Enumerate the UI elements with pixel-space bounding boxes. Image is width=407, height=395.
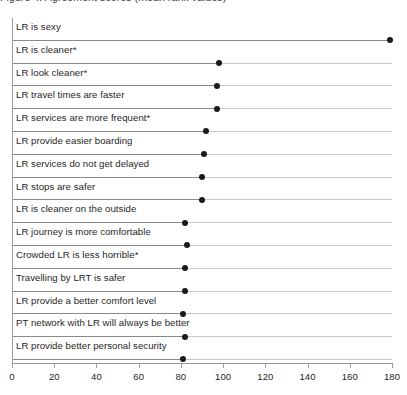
chart-row: LR is cleaner* bbox=[0, 41, 407, 64]
x-axis-tick-label: 180 bbox=[384, 371, 400, 382]
chart-row: Crowded LR is less horrible* bbox=[0, 246, 407, 269]
chart-row: LR travel times are faster bbox=[0, 86, 407, 109]
x-axis-tick bbox=[139, 363, 140, 368]
chart-row: LR provide easier boarding bbox=[0, 132, 407, 155]
lollipop-chart: Figure 4: Agreement scores (mean rank va… bbox=[0, 0, 407, 395]
chart-row: LR services do not get delayed bbox=[0, 155, 407, 178]
category-label: Crowded LR is less horrible* bbox=[16, 249, 138, 260]
x-axis-tick bbox=[54, 363, 55, 368]
category-label: LR provide better personal security bbox=[16, 340, 167, 351]
x-axis-tick-label: 120 bbox=[257, 371, 273, 382]
category-label: LR stops are safer bbox=[16, 181, 95, 192]
category-label: LR look cleaner* bbox=[16, 67, 87, 78]
x-axis-tick-label: 0 bbox=[9, 371, 14, 382]
chart-row: LR stops are safer bbox=[0, 178, 407, 201]
x-axis-tick bbox=[392, 363, 393, 368]
x-axis-tick bbox=[308, 363, 309, 368]
x-axis-tick-label: 160 bbox=[342, 371, 358, 382]
y-axis-spine bbox=[12, 18, 13, 363]
category-label: LR is sexy bbox=[16, 21, 61, 32]
chart-row: PT network with LR will always be better bbox=[0, 314, 407, 337]
category-label: PT network with LR will always be better bbox=[16, 317, 190, 328]
x-axis-tick bbox=[350, 363, 351, 368]
x-axis-tick bbox=[223, 363, 224, 368]
x-axis-tick-label: 20 bbox=[49, 371, 60, 382]
x-axis-tick-label: 100 bbox=[215, 371, 231, 382]
x-axis-tick-label: 80 bbox=[176, 371, 187, 382]
x-axis-tick-label: 60 bbox=[133, 371, 144, 382]
category-label: LR journey is more comfortable bbox=[16, 226, 151, 237]
chart-row: LR look cleaner* bbox=[0, 64, 407, 87]
x-axis-tick-label: 140 bbox=[300, 371, 316, 382]
chart-row: LR services are more frequent* bbox=[0, 109, 407, 132]
category-label: LR is cleaner* bbox=[16, 44, 76, 55]
x-axis-line bbox=[12, 363, 392, 364]
category-label: LR provide easier boarding bbox=[16, 135, 133, 146]
x-axis-tick bbox=[265, 363, 266, 368]
lollipop-stem bbox=[12, 359, 183, 360]
category-label: LR is cleaner on the outside bbox=[16, 203, 136, 214]
chart-row: Travelling by LRT is safer bbox=[0, 269, 407, 292]
category-label: Travelling by LRT is safer bbox=[16, 272, 125, 283]
chart-row: LR is cleaner on the outside bbox=[0, 200, 407, 223]
x-axis-tick-label: 40 bbox=[91, 371, 102, 382]
chart-row: LR provide better personal security bbox=[0, 337, 407, 360]
category-label: LR services are more frequent* bbox=[16, 112, 150, 123]
plot-area: LR is sexyLR is cleaner*LR look cleaner*… bbox=[0, 18, 407, 360]
chart-row: LR provide a better comfort level bbox=[0, 292, 407, 315]
x-axis-tick bbox=[12, 363, 13, 368]
category-label: LR services do not get delayed bbox=[16, 158, 149, 169]
category-label: LR provide a better comfort level bbox=[16, 295, 156, 306]
x-axis-tick bbox=[181, 363, 182, 368]
chart-title-clipped: Figure 4: Agreement scores (mean rank va… bbox=[0, 0, 407, 5]
chart-row: LR is sexy bbox=[0, 18, 407, 41]
lollipop-dot[interactable] bbox=[180, 356, 186, 362]
chart-row: LR journey is more comfortable bbox=[0, 223, 407, 246]
category-label: LR travel times are faster bbox=[16, 89, 124, 100]
x-axis-tick bbox=[96, 363, 97, 368]
